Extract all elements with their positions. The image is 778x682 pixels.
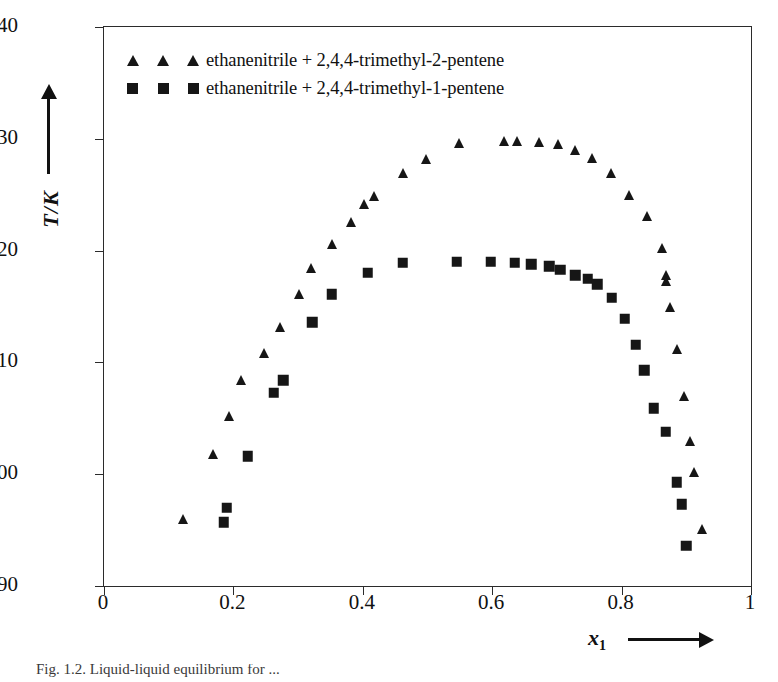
legend-key-group-triangle — [127, 55, 199, 66]
data-point-triangle — [587, 153, 597, 163]
square-icon — [158, 83, 169, 94]
y-axis-tick — [95, 139, 104, 140]
data-point-square — [307, 317, 318, 328]
data-point-triangle — [553, 139, 563, 149]
data-point-square — [486, 257, 497, 268]
data-point-triangle — [178, 514, 188, 524]
data-point-triangle — [454, 138, 464, 148]
data-point-square — [544, 261, 555, 272]
y-axis-title: T/K — [28, 196, 74, 222]
data-point-square — [510, 258, 521, 269]
data-point-square — [631, 339, 642, 350]
data-point-square — [268, 387, 279, 398]
data-point-triangle — [534, 137, 544, 147]
data-point-square — [570, 270, 581, 281]
data-point-triangle — [327, 239, 337, 249]
data-point-triangle — [624, 190, 634, 200]
data-point-triangle — [657, 243, 667, 253]
y-axis-tick-label: 300 — [0, 462, 18, 483]
data-point-square — [639, 365, 650, 376]
legend-label: ethanenitrile + 2,4,4-trimethyl-2-penten… — [206, 48, 504, 73]
plot-area — [104, 27, 751, 586]
data-point-square — [222, 502, 233, 513]
x-axis-tick-label: 1 — [720, 592, 778, 613]
data-point-triangle — [665, 302, 675, 312]
y-axis-tick — [95, 251, 104, 252]
triangle-icon — [127, 55, 139, 66]
data-point-square — [326, 289, 337, 300]
data-point-triangle — [398, 168, 408, 178]
data-point-triangle — [421, 154, 431, 164]
x-axis-title-subscript: 1 — [599, 638, 606, 653]
legend-label: ethanenitrile + 2,4,4-trimethyl-1-penten… — [206, 76, 504, 101]
x-axis-arrow-icon — [628, 638, 702, 641]
data-point-square — [607, 292, 618, 303]
data-point-triangle — [685, 436, 695, 446]
legend: ethanenitrile + 2,4,4-trimethyl-2-penten… — [127, 48, 504, 104]
x-axis-tick-label: 0.4 — [332, 592, 392, 613]
plot-frame — [103, 26, 752, 587]
data-point-triangle — [259, 348, 269, 358]
data-point-triangle — [208, 449, 218, 459]
x-axis-tick-label: 0.2 — [202, 592, 262, 613]
data-point-square — [660, 426, 671, 437]
square-icon — [188, 83, 199, 94]
y-axis-tick — [95, 27, 104, 28]
data-point-square — [555, 264, 566, 275]
data-point-square — [592, 279, 603, 290]
data-point-triangle — [570, 145, 580, 155]
data-point-square — [681, 541, 692, 552]
data-point-triangle — [359, 199, 369, 209]
figure-caption-text: Fig. 1.2. Liquid-liquid equilibrium for … — [36, 664, 756, 679]
legend-key-group-square — [127, 83, 199, 94]
data-point-triangle — [306, 263, 316, 273]
data-point-triangle — [679, 391, 689, 401]
data-point-square — [242, 451, 253, 462]
triangle-icon — [157, 55, 169, 66]
y-axis-tick-label: 310 — [0, 350, 18, 371]
data-point-square — [649, 403, 660, 414]
y-axis-tick-label: 320 — [0, 239, 18, 260]
data-point-triangle — [275, 322, 285, 332]
legend-entry-square: ethanenitrile + 2,4,4-trimethyl-1-penten… — [127, 76, 504, 101]
data-point-triangle — [642, 211, 652, 221]
y-axis-tick — [95, 586, 104, 587]
x-axis-tick-label: 0.8 — [591, 592, 651, 613]
data-point-square — [677, 499, 688, 510]
data-point-triangle — [606, 168, 616, 178]
y-axis-tick — [95, 362, 104, 363]
triangle-icon — [187, 55, 199, 66]
data-point-square — [218, 517, 229, 528]
data-point-triangle — [661, 276, 671, 286]
data-point-square — [671, 477, 682, 488]
data-point-triangle — [512, 136, 522, 146]
data-point-triangle — [672, 344, 682, 354]
data-point-square — [451, 257, 462, 268]
data-point-triangle — [294, 289, 304, 299]
data-point-triangle — [369, 191, 379, 201]
data-point-triangle — [224, 411, 234, 421]
x-axis-tick-label: 0 — [73, 592, 133, 613]
y-axis-tick-label: 330 — [0, 127, 18, 148]
data-point-triangle — [689, 467, 699, 477]
data-point-square — [526, 259, 537, 270]
y-axis-tick-label: 340 — [0, 15, 18, 36]
data-point-triangle — [346, 217, 356, 227]
data-point-square — [363, 268, 374, 279]
data-point-triangle — [697, 524, 707, 534]
legend-entry-triangle: ethanenitrile + 2,4,4-trimethyl-2-penten… — [127, 48, 504, 73]
square-icon — [127, 83, 138, 94]
data-point-triangle — [499, 136, 509, 146]
y-axis-arrow-icon — [47, 96, 50, 174]
x-axis-title: x1 — [588, 625, 606, 654]
data-point-square — [278, 375, 289, 386]
data-point-triangle — [236, 375, 246, 385]
y-axis-tick — [95, 474, 104, 475]
data-point-square — [398, 258, 409, 269]
x-axis-title-text: x — [588, 625, 599, 650]
figure-caption: Fig. 1.2. Liquid-liquid equilibrium for … — [36, 664, 756, 682]
y-axis-tick-label: 290 — [0, 574, 18, 595]
data-point-square — [620, 314, 631, 325]
y-axis-title-text: T/K — [38, 186, 64, 232]
figure-container: T/K x1 ethanenitrile + 2,4,4-trimethyl-2… — [0, 0, 778, 682]
